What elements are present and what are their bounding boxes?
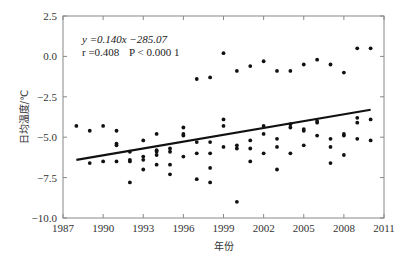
- data-point: [302, 129, 306, 133]
- data-point: [141, 155, 145, 159]
- data-point: [168, 172, 172, 176]
- data-point: [128, 181, 132, 185]
- data-point: [329, 161, 333, 165]
- x-tick-label: 1993: [132, 222, 155, 234]
- y-tick-label: −7.5: [37, 172, 57, 184]
- scatter-chart: 198719901993199619992002200520082011 2.5…: [0, 0, 413, 262]
- regression-line: [76, 110, 370, 160]
- data-point: [369, 46, 373, 50]
- data-point: [355, 46, 359, 50]
- data-point: [235, 200, 239, 204]
- data-point: [275, 137, 279, 141]
- data-point: [235, 69, 239, 73]
- data-point: [315, 134, 319, 138]
- data-point: [329, 63, 333, 67]
- data-point: [302, 143, 306, 147]
- data-point: [88, 129, 92, 133]
- data-point: [275, 145, 279, 149]
- y-tick-label: 2.5: [43, 10, 57, 22]
- data-point: [155, 132, 159, 136]
- data-point: [128, 150, 132, 154]
- data-point: [248, 160, 252, 164]
- y-tick-label: −5.0: [37, 131, 57, 143]
- data-point: [141, 158, 145, 162]
- r-annotation: r =0.408: [82, 46, 120, 58]
- data-point: [181, 126, 185, 130]
- x-tick-label: 2008: [333, 222, 356, 234]
- p-annotation: P < 0.000 1: [129, 46, 179, 58]
- data-point: [342, 134, 346, 138]
- x-tick-labels: 198719901993199619992002200520082011: [52, 222, 395, 234]
- data-point: [288, 122, 292, 126]
- data-point: [195, 151, 199, 155]
- data-point: [288, 69, 292, 73]
- data-point: [128, 160, 132, 164]
- data-point: [235, 143, 239, 147]
- data-point: [208, 181, 212, 185]
- data-point: [302, 63, 306, 67]
- data-points: [74, 46, 372, 203]
- y-tick-label: 0.0: [43, 50, 57, 62]
- data-point: [115, 160, 119, 164]
- x-axis-label: 年份: [214, 240, 234, 252]
- data-point: [355, 116, 359, 120]
- data-point: [355, 121, 359, 125]
- data-point: [168, 147, 172, 151]
- data-point: [369, 139, 373, 143]
- data-point: [222, 145, 226, 149]
- data-point: [342, 71, 346, 75]
- data-point: [141, 168, 145, 172]
- data-point: [222, 118, 226, 122]
- data-point: [248, 64, 252, 68]
- data-point: [288, 126, 292, 130]
- data-point: [262, 132, 266, 136]
- x-tick-label: 2011: [373, 222, 395, 234]
- data-point: [342, 153, 346, 157]
- data-point: [355, 137, 359, 141]
- data-point: [288, 151, 292, 155]
- data-point: [222, 51, 226, 55]
- data-point: [88, 161, 92, 165]
- x-tick-label: 2002: [253, 222, 275, 234]
- data-point: [369, 118, 373, 122]
- data-point: [115, 143, 119, 147]
- data-point: [248, 139, 252, 143]
- data-point: [235, 147, 239, 151]
- y-tick-labels: 2.50.0−2.5−5.0−7.5−10.0: [32, 10, 58, 224]
- data-point: [208, 166, 212, 170]
- x-tick-label: 1996: [172, 222, 195, 234]
- data-point: [248, 147, 252, 151]
- data-point: [222, 124, 226, 128]
- y-tick-label: −2.5: [37, 91, 57, 103]
- data-point: [74, 124, 78, 128]
- data-point: [329, 145, 333, 149]
- data-point: [208, 76, 212, 80]
- data-point: [262, 59, 266, 63]
- x-tick-label: 2005: [293, 222, 316, 234]
- data-point: [155, 150, 159, 154]
- data-point: [168, 150, 172, 154]
- data-point: [195, 177, 199, 181]
- data-point: [155, 163, 159, 167]
- data-point: [101, 124, 105, 128]
- data-point: [168, 163, 172, 167]
- data-point: [315, 121, 319, 125]
- data-point: [181, 134, 185, 138]
- data-point: [195, 140, 199, 144]
- data-point: [262, 151, 266, 155]
- data-point: [141, 139, 145, 143]
- data-point: [208, 151, 212, 155]
- x-tick-label: 1990: [92, 222, 115, 234]
- data-point: [115, 129, 119, 133]
- data-point: [275, 168, 279, 172]
- x-tick-label: 1999: [213, 222, 236, 234]
- equation-annotation: y =0.140x −285.07: [81, 33, 168, 45]
- data-point: [262, 124, 266, 128]
- data-point: [181, 155, 185, 159]
- data-point: [208, 140, 212, 144]
- data-point: [275, 69, 279, 73]
- y-axis-label: 日均温度/℃: [18, 90, 30, 145]
- data-point: [329, 137, 333, 141]
- data-point: [315, 58, 319, 62]
- data-point: [101, 160, 105, 164]
